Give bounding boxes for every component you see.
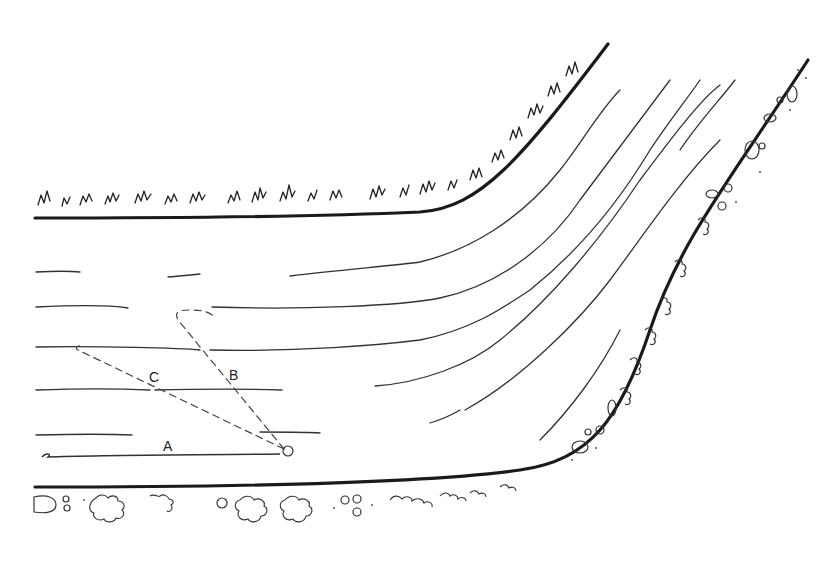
start-point — [283, 446, 293, 456]
river-bend-diagram: A B C — [0, 0, 838, 564]
grass-tufts — [38, 62, 578, 206]
bank-vegetation-right — [83, 69, 807, 509]
lower-bank — [35, 60, 808, 487]
path-a-line — [42, 454, 280, 457]
current-lines — [36, 80, 735, 440]
label-a: A — [163, 438, 172, 454]
bank-vegetation-bottom — [34, 485, 516, 522]
label-b: B — [229, 367, 238, 383]
upper-bank — [35, 44, 608, 218]
path-c-line — [76, 346, 284, 449]
label-c: C — [149, 369, 159, 385]
river-drawing — [0, 0, 838, 564]
